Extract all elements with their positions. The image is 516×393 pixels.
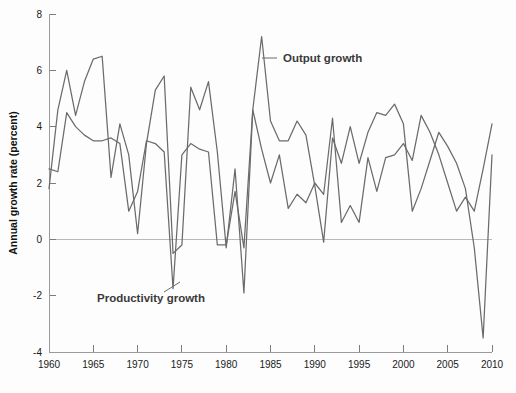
x-tick-label: 2000 <box>392 359 415 370</box>
chart-annotations: Output growthProductivity growth <box>97 52 362 304</box>
x-tick-label: 1980 <box>215 359 238 370</box>
series-line-productivity-growth <box>49 110 492 289</box>
annotation-label: Productivity growth <box>97 292 205 304</box>
y-axis-title: Annual growth rate (percent) <box>7 111 19 255</box>
y-tick-label: 4 <box>36 121 42 132</box>
x-axis-ticks: 1960196519701975198019851990199520002005… <box>38 345 504 370</box>
y-tick-label: -2 <box>33 290 42 301</box>
x-tick-label: 1970 <box>126 359 149 370</box>
annotation-leader-line <box>164 282 180 292</box>
x-tick-label: 1960 <box>38 359 61 370</box>
x-tick-label: 1995 <box>348 359 371 370</box>
x-tick-label: 1965 <box>82 359 105 370</box>
y-tick-label: 6 <box>36 65 42 76</box>
x-tick-label: 1985 <box>259 359 282 370</box>
y-tick-label: -4 <box>33 347 42 358</box>
x-tick-label: 2010 <box>481 359 504 370</box>
x-tick-label: 1990 <box>304 359 327 370</box>
chart-container: -4-202468 196019651970197519801985199019… <box>0 0 516 393</box>
growth-rate-line-chart: -4-202468 196019651970197519801985199019… <box>0 0 516 393</box>
y-tick-label: 0 <box>36 234 42 245</box>
y-axis-ticks: -4-202468 <box>33 9 56 358</box>
x-tick-label: 1975 <box>171 359 194 370</box>
y-tick-label: 2 <box>36 178 42 189</box>
y-tick-label: 8 <box>36 9 42 20</box>
x-tick-label: 2005 <box>437 359 460 370</box>
annotation-label: Output growth <box>283 52 362 64</box>
